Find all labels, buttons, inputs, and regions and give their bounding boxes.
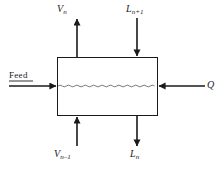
stream-label-vapor-out-subscript: n — [63, 8, 67, 16]
stream-label-vapor-in-subscript: n–1 — [60, 153, 71, 161]
diagram-canvas — [0, 0, 220, 169]
stream-label-liquid-in: Ln+1 — [126, 4, 144, 16]
stream-label-vapor-out: Vn — [57, 4, 67, 16]
stream-label-feed: Feed — [9, 71, 28, 80]
stream-label-liquid-out: Ln — [130, 149, 139, 161]
process-flow-diagram: Vn Ln+1 Vn–1 Ln Feed Q — [0, 0, 220, 169]
stream-label-liquid-out-subscript: n — [136, 153, 140, 161]
stream-label-vapor-in: Vn–1 — [54, 149, 71, 161]
stream-label-liquid-in-subscript: n+1 — [132, 8, 144, 16]
stream-label-heat-duty: Q — [207, 80, 214, 90]
